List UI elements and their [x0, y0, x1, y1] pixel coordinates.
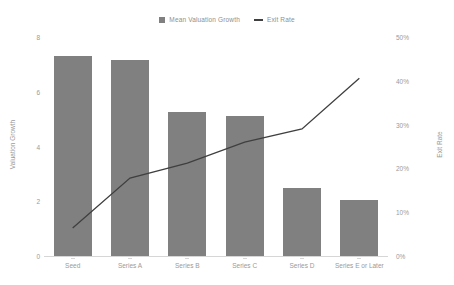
legend-label-exit-rate: Exit Rate — [267, 16, 295, 23]
x-axis-line — [44, 256, 388, 257]
x-axis-tick-label: Series E or Later — [335, 262, 384, 269]
exit-rate-polyline — [73, 78, 360, 228]
y-axis-left-tick-label: 8 — [36, 34, 40, 41]
x-axis-tick-label: Series B — [175, 262, 200, 269]
chart-legend: Mean Valuation Growth Exit Rate — [0, 16, 454, 23]
y-axis-left-tick-label: 2 — [36, 198, 40, 205]
x-axis-tick-label: Seed — [65, 262, 80, 269]
x-axis-tick-label: Series C — [232, 262, 257, 269]
x-axis-tick-mark — [357, 258, 361, 259]
chart-container: Mean Valuation Growth Exit Rate Valuatio… — [0, 0, 454, 285]
square-swatch-icon — [159, 17, 165, 23]
y-axis-right-tick-label: 10% — [396, 209, 409, 216]
y-axis-right-tick-label: 30% — [396, 121, 409, 128]
legend-item-mean-valuation-growth[interactable]: Mean Valuation Growth — [159, 16, 240, 23]
y-axis-right-tick-label: 0% — [396, 253, 405, 260]
x-axis-tick-mark — [300, 258, 304, 259]
line-series-exit-rate — [44, 37, 388, 256]
y-axis-right-tick-label: 40% — [396, 77, 409, 84]
y-axis-left-tick-label: 4 — [36, 143, 40, 150]
legend-label-mean-valuation-growth: Mean Valuation Growth — [169, 16, 240, 23]
line-swatch-icon — [254, 19, 263, 21]
x-axis-tick-mark — [243, 258, 247, 259]
y-axis-right-title: Exit Rate — [436, 110, 443, 180]
plot-area — [44, 37, 388, 256]
x-axis-tick-label: Series D — [290, 262, 315, 269]
y-axis-left-tick-label: 6 — [36, 88, 40, 95]
y-axis-left-title: Valuation Growth — [9, 110, 16, 180]
y-axis-left-tick-label: 0 — [36, 253, 40, 260]
x-axis-tick-mark — [71, 258, 75, 259]
x-axis-tick-label: Series A — [118, 262, 142, 269]
y-axis-right-tick-label: 20% — [396, 165, 409, 172]
x-axis-tick-mark — [128, 258, 132, 259]
y-axis-right-tick-label: 50% — [396, 34, 409, 41]
x-axis-tick-mark — [185, 258, 189, 259]
legend-item-exit-rate[interactable]: Exit Rate — [254, 16, 295, 23]
